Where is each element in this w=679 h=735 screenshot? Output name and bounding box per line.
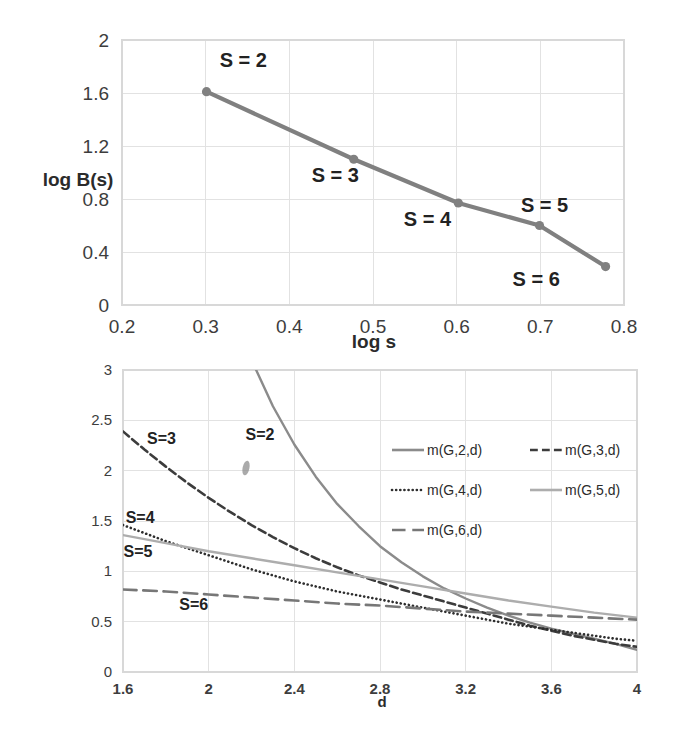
x-tick-label: 3.6 xyxy=(541,680,562,697)
y-tick-label: 1.6 xyxy=(83,83,109,104)
x-tick-label: 2 xyxy=(204,680,212,697)
chart-bottom-x-axis-title: d xyxy=(377,693,386,710)
x-tick-label: 0.7 xyxy=(527,316,553,337)
y-tick-label: 2 xyxy=(98,30,109,51)
y-tick-label: 3 xyxy=(104,361,112,378)
y-tick-label: 0.8 xyxy=(83,189,109,210)
figure-container: 0.20.30.40.50.60.70.8 00.40.81.21.62 S =… xyxy=(0,0,679,735)
y-tick-label: 1.2 xyxy=(83,136,109,157)
x-tick-label: 4 xyxy=(633,680,642,697)
chart-bottom-svg: 1.622.42.83.23.64 00.511.522.53 S=2S=3S=… xyxy=(0,350,679,735)
legend-label-mg2d: m(G,2,d) xyxy=(427,442,482,458)
series-annotation-label: S = 2 xyxy=(220,49,267,71)
y-tick-label: 2 xyxy=(104,462,112,479)
y-tick-label: 0.4 xyxy=(83,242,110,263)
curve-annotation-label: S=5 xyxy=(124,543,153,560)
x-tick-label: 0.4 xyxy=(276,316,303,337)
series-annotation-label: S = 6 xyxy=(513,268,560,290)
chart-bottom-m-vs-d: 1.622.42.83.23.64 00.511.522.53 S=2S=3S=… xyxy=(0,350,679,735)
y-tick-label: 0.5 xyxy=(91,613,112,630)
chart-bottom-curve-annotations: S=2S=3S=4S=5S=6 xyxy=(124,426,275,612)
x-tick-label: 2.4 xyxy=(284,680,306,697)
series-annotation-label: S = 5 xyxy=(521,194,568,216)
chart-top-x-axis-title: log s xyxy=(352,331,396,352)
chart-top-series-group xyxy=(207,92,606,267)
x-tick-label: 0.3 xyxy=(192,316,218,337)
legend-label-mg3d: m(G,3,d) xyxy=(565,442,620,458)
x-tick-label: 0.8 xyxy=(611,316,637,337)
x-tick-label: 0.2 xyxy=(109,316,135,337)
chart-top-gridlines xyxy=(122,40,624,305)
y-tick-label: 0 xyxy=(98,295,109,316)
curve-annotation-label: S=3 xyxy=(147,430,176,447)
chart-bottom-y-tick-labels: 00.511.522.53 xyxy=(91,361,112,680)
legend-label-mg5d: m(G,5,d) xyxy=(565,482,620,498)
curve-annotation-label: S=6 xyxy=(179,596,208,613)
x-tick-label: 1.6 xyxy=(113,680,134,697)
y-tick-label: 1 xyxy=(104,562,112,579)
legend-label-mg6d: m(G,6,d) xyxy=(427,522,482,538)
data-point-marker xyxy=(601,262,610,271)
data-point-marker xyxy=(202,87,211,96)
data-point-marker xyxy=(535,221,544,230)
chart-bottom-legend: m(G,2,d)m(G,3,d)m(G,4,d)m(G,5,d)m(G,6,d) xyxy=(392,442,620,538)
series-line-log-b xyxy=(207,92,606,267)
chart-top-log-b-vs-log-s: 0.20.30.40.50.60.70.8 00.40.81.21.62 S =… xyxy=(0,0,679,360)
y-tick-label: 2.5 xyxy=(91,411,112,428)
ink-smudge-artifact xyxy=(241,460,251,476)
chart-top-y-axis-title: log B(s) xyxy=(43,169,114,190)
legend-label-mg4d: m(G,4,d) xyxy=(427,482,482,498)
series-annotation-label: S = 3 xyxy=(312,164,359,186)
chart-bottom-gridlines xyxy=(123,370,637,672)
x-tick-label: 3.2 xyxy=(455,680,476,697)
chart-top-point-annotations: S = 2S = 3S = 4S = 5S = 6 xyxy=(220,49,568,291)
series-annotation-label: S = 4 xyxy=(404,208,452,230)
curve-annotation-label: S=2 xyxy=(246,426,275,443)
data-point-marker xyxy=(349,155,358,164)
curve-annotation-label: S=4 xyxy=(126,509,155,526)
chart-top-svg: 0.20.30.40.50.60.70.8 00.40.81.21.62 S =… xyxy=(0,0,679,360)
data-point-marker xyxy=(454,198,463,207)
x-tick-label: 0.6 xyxy=(443,316,469,337)
y-tick-label: 1.5 xyxy=(91,512,112,529)
y-tick-label: 0 xyxy=(104,663,112,680)
